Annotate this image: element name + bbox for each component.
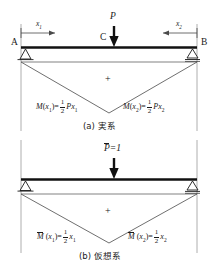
load-label-p: P [110,12,116,22]
sign-label-positive-a: + [105,74,111,84]
equation-moment-right-b: M (x2)=12x2 [128,229,167,245]
dimension-label-x1: x1 [36,20,42,30]
dimension-label-x2: x2 [176,20,182,30]
pin-support-a [20,49,31,59]
dimension-arrowhead-x2 [163,31,169,36]
load-label-unit-value: =1 [110,143,121,153]
roller-support-b [187,49,198,58]
panel-caption-b: (b) 仮想系 [79,252,121,261]
moment-diagram-figure [0,0,218,279]
node-label-c: C [100,33,106,43]
pin-support-a-b [20,181,31,191]
panel-caption-a: (a) 実系 [83,122,116,131]
equation-moment-left-b: M (x1)=12x1 [37,229,76,245]
load-label-unit: P=1 [104,144,121,154]
load-label-unit-symbol: P [104,144,110,154]
load-arrow-head-unit [109,168,118,179]
roller-support-b-b [187,181,198,190]
sign-label-positive-b: + [105,206,111,216]
node-label-b: B [201,38,207,48]
equation-moment-left-a: M(x1)=12Px1 [36,99,77,115]
load-arrow-head-p [109,36,118,47]
equation-moment-right-a: M(x2)=12Px2 [123,99,164,115]
dimension-arrowhead-x1 [49,31,55,36]
node-label-a: A [11,38,18,48]
